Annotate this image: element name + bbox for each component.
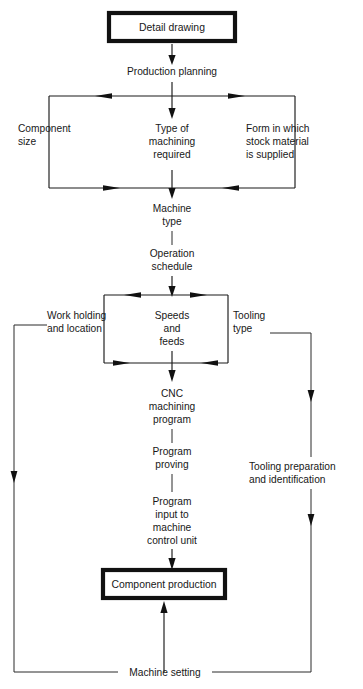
program-proving-label-line1: Program xyxy=(152,446,191,457)
tooling-preparation-label-line2: and identification xyxy=(249,474,325,485)
flowchart-page: Detail drawing Production planning xyxy=(0,0,363,689)
tooling-type-label-line1: Tooling xyxy=(233,310,266,321)
operation-schedule-label-line2: schedule xyxy=(152,261,193,272)
speeds-feeds-label-line2: and xyxy=(164,323,181,334)
work-holding-label-line1: Work holding xyxy=(47,310,107,321)
machine-type-label-line2: type xyxy=(162,216,182,227)
type-of-machining-label-line1: Type of xyxy=(155,123,189,134)
cnc-program-label-line3: program xyxy=(153,414,191,425)
arrow-split1-center xyxy=(168,96,175,119)
arrow-machine-setting-to-component-production xyxy=(160,601,167,672)
production-planning-label: Production planning xyxy=(127,66,217,77)
merge-bar-bottom-2 xyxy=(104,360,228,366)
arrow-operation-to-split2 xyxy=(168,276,175,297)
arrow-merge2-to-cnc xyxy=(168,351,175,382)
machine-setting-label: Machine setting xyxy=(129,667,201,678)
arrow-merge1-to-machine-type xyxy=(168,170,175,199)
form-stock-label-line2: stock material xyxy=(246,136,309,147)
cnc-program-label-line1: CNC xyxy=(161,388,183,399)
machine-type-label-line1: Machine xyxy=(153,203,192,214)
form-stock-label-line3: is supplied xyxy=(246,149,294,160)
program-input-label-line4: control unit xyxy=(147,535,197,546)
arrow-input-to-component-production xyxy=(168,549,175,570)
program-proving-label-line2: proving xyxy=(155,459,189,470)
detail-drawing-label: Detail drawing xyxy=(139,22,205,33)
flowchart-svg: Detail drawing Production planning xyxy=(0,0,363,689)
right-feedback-loop xyxy=(270,333,314,672)
program-input-label-line3: machine xyxy=(153,522,192,533)
program-input-label-line1: Program xyxy=(152,496,191,507)
form-stock-label-line1: Form in which xyxy=(246,123,309,134)
component-production-label: Component production xyxy=(111,579,216,590)
tooling-type-label-line2: type xyxy=(233,323,253,334)
work-holding-label-line2: and location xyxy=(47,323,102,334)
type-of-machining-label-line3: required xyxy=(153,149,191,160)
component-size-label-line1: Component xyxy=(18,123,71,134)
component-size-label-line2: size xyxy=(18,136,36,147)
speeds-feeds-label-line1: Speeds xyxy=(155,310,190,321)
arrow-detail-to-planning xyxy=(168,44,175,65)
operation-schedule-label-line1: Operation xyxy=(150,248,195,259)
type-of-machining-label-line2: machining xyxy=(149,136,196,147)
program-input-label-line2: input to xyxy=(155,509,189,520)
left-feedback-loop xyxy=(11,325,47,672)
tooling-preparation-label-line1: Tooling preparation xyxy=(249,461,336,472)
cnc-program-label-line2: machining xyxy=(149,401,196,412)
speeds-feeds-label-line3: feeds xyxy=(160,336,185,347)
